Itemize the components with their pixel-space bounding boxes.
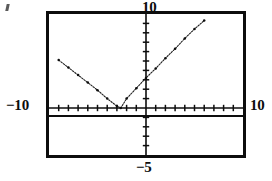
plot-pixel (135, 87, 138, 90)
plot-pixel (120, 107, 123, 110)
plot-pixel (77, 74, 80, 77)
plot-pixel (106, 97, 109, 100)
figure-canvas: 10 −10 10 −5 (0, 0, 272, 181)
plot-pixel (125, 97, 128, 100)
plot-pixel (184, 37, 187, 40)
plot-pixel (116, 105, 119, 108)
plot-pixel (203, 19, 206, 22)
plot-pixel (154, 67, 157, 70)
plot-pixel (193, 28, 196, 31)
plot-pixel (174, 48, 177, 51)
plot-pixel (87, 81, 90, 84)
plot-pixel (67, 66, 70, 69)
plot-pixel (145, 77, 148, 80)
plot-pixel (57, 59, 60, 62)
calculator-screen-plot (0, 0, 272, 181)
plot-pixel (164, 57, 167, 60)
plot-pixel (96, 89, 99, 92)
